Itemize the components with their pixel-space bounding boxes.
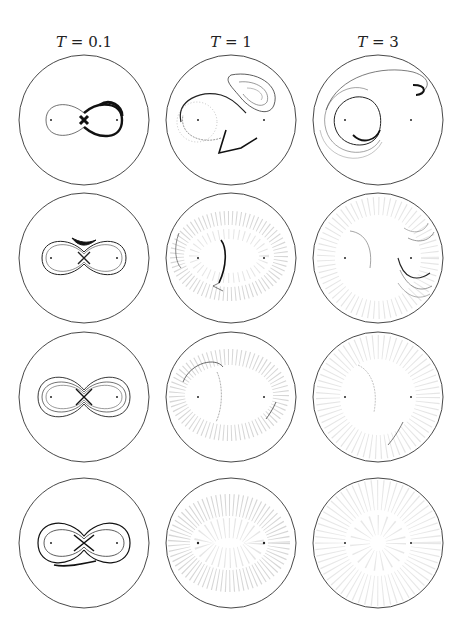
- column-title-t-0.1: T = 0.1: [24, 33, 144, 51]
- title-value: 3: [389, 33, 399, 51]
- panel-r1-c1: [14, 50, 154, 190]
- panel-r2-c1: [14, 188, 154, 328]
- vortex-right: [116, 119, 118, 121]
- panel-r4-c1: [14, 473, 154, 613]
- vortex-right: [263, 257, 265, 259]
- vortex-right: [263, 396, 265, 398]
- vortex-right: [116, 257, 118, 259]
- vortex-left: [344, 257, 346, 259]
- vortex-right: [116, 396, 118, 398]
- vortex-right: [410, 542, 412, 544]
- panel-r2-c2: [161, 188, 301, 328]
- vortex-left: [344, 542, 346, 544]
- column-title-t-1: T = 1: [171, 33, 291, 51]
- title-value: 1: [242, 33, 252, 51]
- vortex-right: [410, 257, 412, 259]
- title-value: 0.1: [88, 33, 112, 51]
- title-var: T: [357, 33, 367, 51]
- vortex-left: [197, 119, 199, 121]
- vortex-right: [410, 119, 412, 121]
- panel-r4-c2: [161, 473, 301, 613]
- vortex-left: [50, 257, 52, 259]
- panel-r1-c3: [308, 50, 448, 190]
- vortex-left: [344, 119, 346, 121]
- vortex-left: [50, 396, 52, 398]
- title-op: =: [220, 33, 242, 51]
- vortex-left: [344, 396, 346, 398]
- vortex-left: [197, 257, 199, 259]
- vortex-right: [263, 542, 265, 544]
- title-op: =: [367, 33, 389, 51]
- panel-r2-c3: [308, 188, 448, 328]
- vortex-right: [116, 542, 118, 544]
- title-var: T: [210, 33, 220, 51]
- vortex-left: [50, 119, 52, 121]
- vortex-right: [263, 119, 265, 121]
- panel-r1-c2: [161, 50, 301, 190]
- vortex-left: [197, 396, 199, 398]
- vortex-right: [410, 396, 412, 398]
- vortex-left: [50, 542, 52, 544]
- panel-r3-c3: [308, 327, 448, 467]
- panel-r4-c3: [308, 473, 448, 613]
- column-title-t-3: T = 3: [318, 33, 438, 51]
- panel-r3-c1: [14, 327, 154, 467]
- vortex-left: [197, 542, 199, 544]
- title-op: =: [66, 33, 88, 51]
- panel-r3-c2: [161, 327, 301, 467]
- title-var: T: [56, 33, 66, 51]
